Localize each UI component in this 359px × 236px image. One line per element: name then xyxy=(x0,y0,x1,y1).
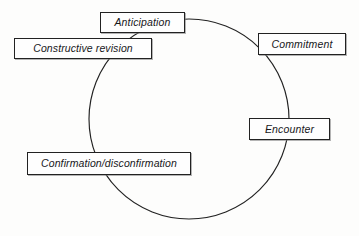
node-revision[interactable]: Constructive revision xyxy=(14,38,152,59)
node-encounter-label: Encounter xyxy=(265,124,314,135)
node-anticipation[interactable]: Anticipation xyxy=(100,12,185,33)
node-confirmation[interactable]: Confirmation/disconfirmation xyxy=(27,152,191,175)
node-commitment-label: Commitment xyxy=(271,39,332,50)
cycle-diagram: Anticipation Commitment Encounter Confir… xyxy=(0,0,359,236)
node-anticipation-label: Anticipation xyxy=(114,17,170,28)
node-encounter[interactable]: Encounter xyxy=(249,118,330,140)
node-confirmation-label: Confirmation/disconfirmation xyxy=(41,158,177,169)
node-revision-label: Constructive revision xyxy=(33,43,133,54)
node-commitment[interactable]: Commitment xyxy=(258,33,346,55)
